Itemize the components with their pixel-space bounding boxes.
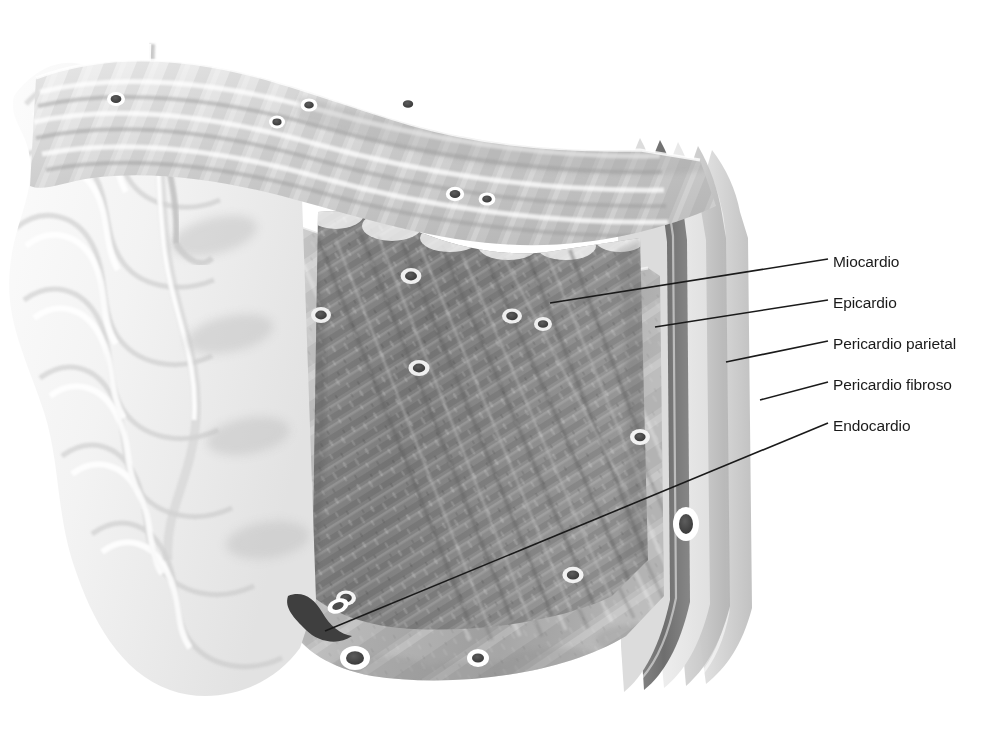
label-pericardio-fibroso: Pericardio fibroso: [833, 377, 952, 393]
label-endocardio: Endocardio: [833, 418, 910, 434]
label-epicardio: Epicardio: [833, 295, 897, 311]
heart-wall-illustration: [0, 0, 991, 745]
figure-container: Pared cardiaca normal: [0, 0, 991, 745]
label-pericardio-parietal: Pericardio parietal: [833, 336, 956, 352]
label-miocardio: Miocardio: [833, 254, 899, 270]
